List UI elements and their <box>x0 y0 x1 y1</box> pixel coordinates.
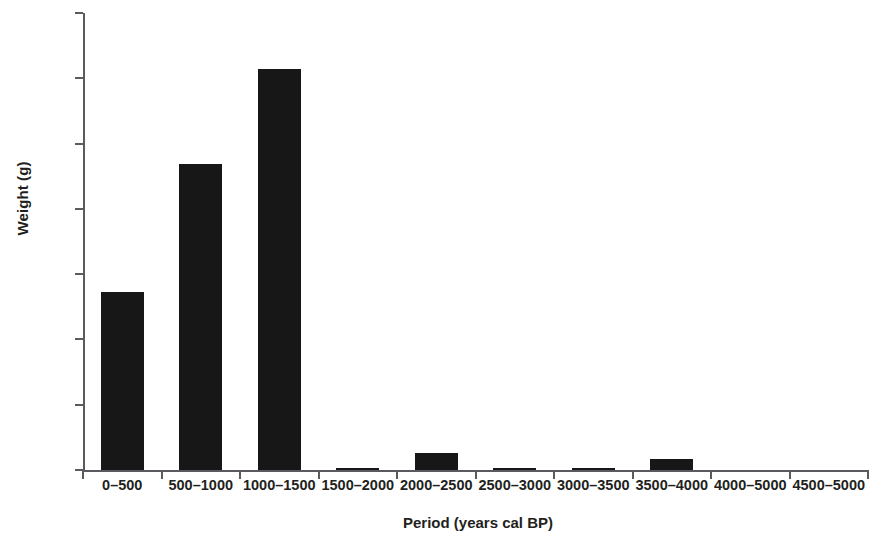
x-tick-mark <box>632 470 634 479</box>
y-axis-line <box>83 13 85 472</box>
y-axis-title: Weight (g) <box>14 139 31 259</box>
bar-chart-figure: Weight (g) 01000200030004000500060007000… <box>0 0 876 540</box>
bar <box>258 69 301 470</box>
x-axis-title: Period (years cal BP) <box>0 514 876 531</box>
y-tick-mark <box>75 273 83 275</box>
x-tick-mark <box>789 470 791 479</box>
bar <box>572 468 615 470</box>
x-tick-label: 3000–3500 <box>557 478 630 493</box>
y-tick-mark <box>75 338 83 340</box>
y-tick-mark <box>75 404 83 406</box>
bar <box>650 459 693 470</box>
x-tick-mark <box>710 470 712 479</box>
y-tick-mark <box>75 143 83 145</box>
x-tick-mark <box>318 470 320 479</box>
y-tick-mark <box>75 12 83 14</box>
bar <box>415 453 458 470</box>
x-tick-label: 0–500 <box>102 478 142 493</box>
x-tick-label: 4500–5000 <box>792 478 865 493</box>
bar <box>493 468 536 470</box>
x-tick-mark <box>239 470 241 479</box>
y-tick-mark <box>75 208 83 210</box>
x-tick-mark <box>553 470 555 479</box>
x-tick-mark <box>867 470 869 479</box>
x-tick-mark <box>396 470 398 479</box>
bar <box>179 164 222 470</box>
x-tick-label: 1000–1500 <box>243 478 316 493</box>
plot-area <box>83 13 868 470</box>
x-tick-label: 3500–4000 <box>635 478 708 493</box>
x-tick-mark <box>161 470 163 479</box>
y-tick-mark <box>75 77 83 79</box>
x-tick-mark <box>475 470 477 479</box>
x-tick-label: 2500–3000 <box>478 478 551 493</box>
bar <box>101 292 144 470</box>
x-tick-mark <box>82 470 84 479</box>
x-tick-label: 4000–5000 <box>714 478 787 493</box>
bar <box>336 468 379 470</box>
x-tick-label: 1500–2000 <box>321 478 394 493</box>
x-tick-label: 2000–2500 <box>400 478 473 493</box>
x-tick-label: 500–1000 <box>168 478 233 493</box>
